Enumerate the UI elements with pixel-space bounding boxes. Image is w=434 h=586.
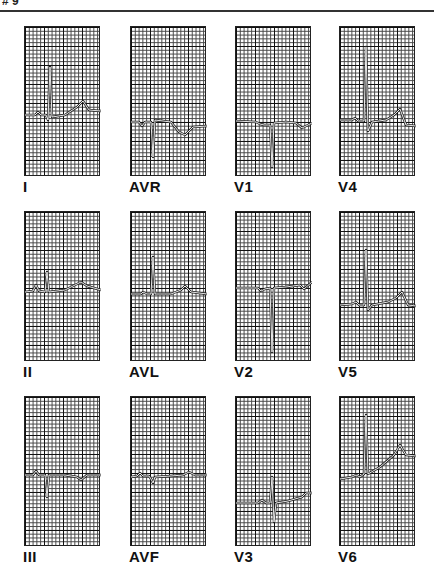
lead-label-v3: V3 bbox=[234, 548, 253, 565]
ecg-grid bbox=[339, 26, 415, 176]
ecg-trace bbox=[131, 27, 207, 177]
ecg-panel-v1 bbox=[235, 26, 311, 176]
lead-label-i: I bbox=[23, 178, 28, 195]
ecg-grid bbox=[339, 396, 415, 546]
ecg-trace bbox=[25, 212, 101, 362]
ecg-trace bbox=[236, 397, 312, 547]
ecg-trace bbox=[131, 212, 207, 362]
lead-label-v4: V4 bbox=[338, 178, 357, 195]
ecg-trace bbox=[340, 212, 416, 362]
lead-label-avl: AVL bbox=[129, 363, 159, 380]
lead-label-v5: V5 bbox=[338, 363, 357, 380]
ecg-grid bbox=[24, 26, 100, 176]
lead-label-ii: II bbox=[23, 363, 32, 380]
ecg-trace bbox=[25, 397, 101, 547]
lead-label-avr: AVR bbox=[129, 178, 161, 195]
ecg-grid bbox=[235, 396, 311, 546]
ecg-panel-v3 bbox=[235, 396, 311, 546]
lead-label-v2: V2 bbox=[234, 363, 253, 380]
ecg-grid bbox=[339, 211, 415, 361]
ecg-panel-iii bbox=[24, 396, 100, 546]
ecg-panel-v2 bbox=[235, 211, 311, 361]
ecg-panel-avr bbox=[130, 26, 206, 176]
ecg-trace bbox=[236, 27, 312, 177]
ecg-panel-i bbox=[24, 26, 100, 176]
lead-label-v6: V6 bbox=[338, 548, 357, 565]
ecg-grid bbox=[130, 396, 206, 546]
ecg-trace bbox=[340, 27, 416, 177]
ecg-grid bbox=[130, 211, 206, 361]
page-number: # 9 bbox=[2, 0, 19, 8]
ecg-panel-avl bbox=[130, 211, 206, 361]
lead-label-avf: AVF bbox=[129, 548, 159, 565]
header-rule bbox=[0, 10, 434, 12]
ecg-grid bbox=[235, 26, 311, 176]
ecg-grid bbox=[235, 211, 311, 361]
ecg-trace bbox=[340, 397, 416, 547]
ecg-grid bbox=[130, 26, 206, 176]
ecg-panel-v4 bbox=[339, 26, 415, 176]
ecg-grid bbox=[24, 211, 100, 361]
ecg-grid bbox=[24, 396, 100, 546]
ecg-trace bbox=[236, 212, 312, 362]
ecg-trace bbox=[131, 397, 207, 547]
ecg-panel-ii bbox=[24, 211, 100, 361]
lead-label-iii: III bbox=[23, 548, 37, 565]
lead-label-v1: V1 bbox=[234, 178, 253, 195]
ecg-trace bbox=[25, 27, 101, 177]
ecg-panel-avf bbox=[130, 396, 206, 546]
ecg-panel-v5 bbox=[339, 211, 415, 361]
ecg-panel-v6 bbox=[339, 396, 415, 546]
